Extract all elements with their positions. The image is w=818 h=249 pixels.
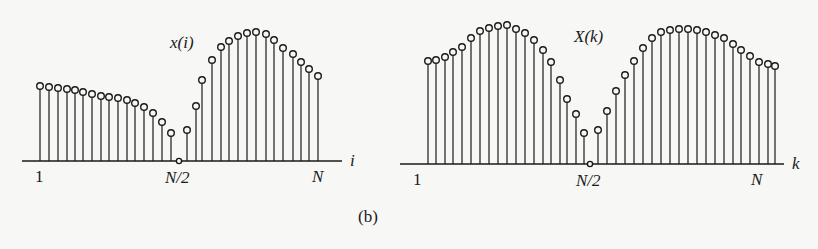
stem-marker <box>587 161 592 166</box>
stem-marker <box>640 45 647 52</box>
stem-marker <box>433 57 440 64</box>
stem-marker <box>306 66 313 73</box>
stem-marker <box>80 89 87 96</box>
stem-marker <box>649 35 656 42</box>
stem-marker <box>738 47 745 54</box>
tick-label-1: 1 <box>413 170 422 189</box>
stem-marker <box>772 63 779 70</box>
stem-marker <box>622 72 629 79</box>
stem-marker <box>604 108 611 115</box>
stem-marker <box>184 127 191 134</box>
stem-marker <box>89 91 96 98</box>
stem-marker <box>564 96 571 103</box>
stem-marker <box>263 31 270 38</box>
stem-marker <box>132 100 139 107</box>
chart-title-x-of-i: x(i) <box>169 33 194 52</box>
stem-chart-X-of-k: X(k) k 1 N/2 N <box>400 22 800 190</box>
stem-marker <box>747 53 754 60</box>
stem-marker <box>226 38 233 45</box>
stem-marker <box>176 158 181 163</box>
stem-marker <box>504 22 511 29</box>
stem-marker <box>581 130 588 137</box>
stem-chart-x-of-i: x(i) i 1 N/2 N <box>22 29 355 187</box>
stem-marker <box>631 58 638 65</box>
axis-label-i: i <box>350 151 355 170</box>
stem-marker <box>703 29 710 36</box>
stem-marker <box>235 33 242 40</box>
stem-marker <box>531 37 538 44</box>
stem-marker <box>595 127 602 134</box>
stem-marker <box>522 30 529 37</box>
tick-label-1: 1 <box>35 167 44 186</box>
stem-marker <box>495 23 502 30</box>
stem-marker <box>540 47 547 54</box>
stem-marker <box>72 87 79 94</box>
stem-marker <box>168 130 175 137</box>
stem-marker <box>613 88 620 95</box>
stem-marker <box>712 32 719 39</box>
chart-title-X-of-k: X(k) <box>573 27 604 46</box>
stem-marker <box>694 27 701 34</box>
stem-marker <box>425 58 432 65</box>
stem-marker <box>159 119 166 126</box>
stem-marker <box>477 28 484 35</box>
axis-label-k: k <box>792 154 800 173</box>
stem-marker <box>676 26 683 33</box>
stem-marker <box>685 26 692 33</box>
stem-marker <box>290 51 297 58</box>
stem-marker <box>193 103 200 110</box>
stem-marker <box>209 57 216 64</box>
stem-marker <box>573 111 580 118</box>
stem-marker <box>141 104 148 111</box>
tick-label-n: N <box>311 167 325 186</box>
stem-marker <box>280 45 287 52</box>
stem-marker <box>46 84 53 91</box>
tick-label-n-half: N/2 <box>164 168 190 187</box>
stem-marker <box>218 44 225 51</box>
stem-marker <box>486 25 493 32</box>
stem-marker <box>459 44 466 51</box>
stem-marker <box>244 30 251 37</box>
stem-marker <box>199 77 206 84</box>
stem-marker <box>98 93 105 100</box>
stem-marker <box>765 61 772 68</box>
stem-marker <box>106 94 113 101</box>
stem-marker <box>548 59 555 66</box>
stem-marker <box>442 54 449 61</box>
stem-marker <box>721 35 728 42</box>
stem-marker <box>315 73 322 80</box>
tick-label-n: N <box>750 170 764 189</box>
figure-caption: (b) <box>358 207 378 226</box>
stem-marker <box>271 37 278 44</box>
stem-marker <box>557 77 564 84</box>
tick-label-n-half: N/2 <box>575 171 601 190</box>
stem-marker <box>450 49 457 56</box>
stem-marker <box>253 29 260 36</box>
stem-marker <box>658 29 665 36</box>
stem-marker <box>150 110 157 117</box>
stem-marker <box>37 83 44 90</box>
stem-marker <box>730 41 737 48</box>
stem-marker <box>513 26 520 33</box>
stem-marker <box>55 85 62 92</box>
stem-marker <box>667 27 674 34</box>
stem-marker <box>298 59 305 66</box>
stem-marker <box>115 95 122 102</box>
stem-marker <box>124 97 131 104</box>
stem-marker <box>756 59 763 66</box>
stem-marker <box>64 86 71 93</box>
figure: x(i) i 1 N/2 N X(k) k 1 N/2 N (b) <box>0 0 818 249</box>
stem-marker <box>468 35 475 42</box>
